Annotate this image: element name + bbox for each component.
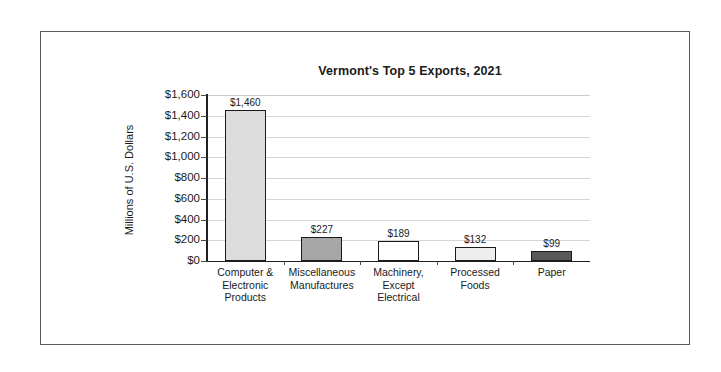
y-axis-tick-label: $0: [140, 254, 200, 266]
bar: [455, 247, 496, 261]
category-label-line: Electronic: [207, 279, 284, 292]
y-axis-tick-label: $400: [140, 213, 200, 225]
category-label-line: Foods: [437, 279, 514, 292]
category-label: MiscellaneousManufactures: [284, 266, 361, 291]
category-label-line: Except: [360, 279, 437, 292]
category-label-line: Computer &: [207, 266, 284, 279]
category-label-line: Paper: [513, 266, 590, 279]
y-axis-tick: [201, 261, 207, 262]
y-axis-tick-labels: $0$200$400$600$800$1,000$1,200$1,400$1,6…: [138, 0, 200, 372]
category-label: Computer &ElectronicProducts: [207, 266, 284, 304]
y-axis-tick: [201, 116, 207, 117]
y-axis-tick: [201, 157, 207, 158]
bar-value-label: $132: [435, 234, 515, 245]
bar-value-label: $189: [359, 228, 439, 239]
y-axis-tick: [201, 199, 207, 200]
y-axis-tick-label: $1,000: [140, 150, 200, 162]
y-axis-tick-label: $1,400: [140, 109, 200, 121]
y-axis-tick-label: $1,200: [140, 130, 200, 142]
page-canvas: Vermont's Top 5 Exports, 2021 Millions o…: [0, 0, 721, 372]
bar: [531, 251, 572, 261]
x-axis-tick: [513, 261, 514, 265]
y-axis-tick: [201, 95, 207, 96]
y-axis-tick: [201, 137, 207, 138]
x-axis-tick: [284, 261, 285, 265]
y-axis-tick-label: $600: [140, 192, 200, 204]
chart-title: Vermont's Top 5 Exports, 2021: [160, 64, 660, 78]
x-axis-tick: [437, 261, 438, 265]
y-axis-tick-label: $1,600: [140, 88, 200, 100]
x-axis-tick: [360, 261, 361, 265]
y-axis-tick-label: $200: [140, 233, 200, 245]
y-axis-tick: [201, 240, 207, 241]
category-label: Machinery,ExceptElectrical: [360, 266, 437, 304]
bar: [225, 110, 266, 261]
bar-value-label: $227: [282, 224, 362, 235]
category-label-line: Machinery,: [360, 266, 437, 279]
category-label-line: Processed: [437, 266, 514, 279]
category-label-line: Products: [207, 291, 284, 304]
category-label: Paper: [513, 266, 590, 279]
category-label-line: Electrical: [360, 291, 437, 304]
y-axis-tick: [201, 220, 207, 221]
category-label: ProcessedFoods: [437, 266, 514, 291]
category-label-line: Manufactures: [284, 279, 361, 292]
bar-value-label: $99: [512, 238, 592, 249]
bar: [378, 241, 419, 261]
y-axis-tick: [201, 178, 207, 179]
category-label-line: Miscellaneous: [284, 266, 361, 279]
bar: [301, 237, 342, 261]
y-axis-title: Millions of U.S. Dollars: [123, 105, 137, 255]
y-axis-tick-label: $800: [140, 171, 200, 183]
bar-value-label: $1,460: [205, 97, 285, 108]
